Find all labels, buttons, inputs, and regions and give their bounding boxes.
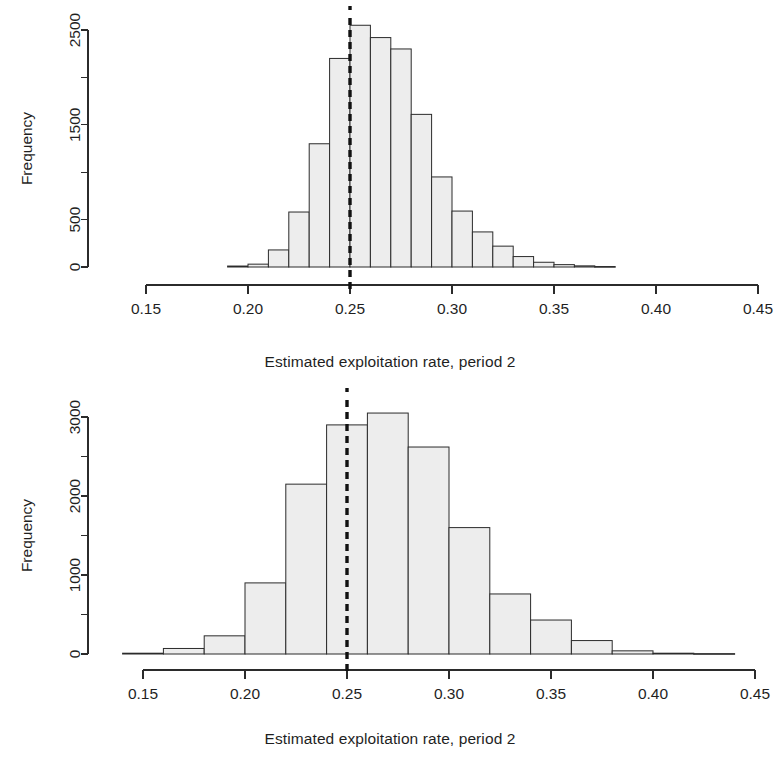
histogram-bar (228, 266, 248, 267)
histogram-bar (571, 641, 612, 654)
histogram-bar (391, 49, 411, 267)
top-plot-canvas: 050015002500Frequency0.150.200.250.300.3… (0, 0, 780, 340)
y-tick-label: 1000 (66, 557, 83, 592)
y-tick-label: 500 (66, 206, 83, 232)
histogram-bar (370, 38, 390, 267)
histogram-bar (204, 636, 245, 654)
histogram-bar (245, 583, 286, 654)
histogram-bar (531, 620, 572, 654)
histogram-bar (123, 653, 164, 654)
histogram-panel-top: 050015002500Frequency0.150.200.250.300.3… (0, 0, 780, 382)
x-tick-label: 0.30 (434, 685, 465, 702)
y-axis: 050015002500 (66, 12, 88, 271)
histogram-bar (472, 232, 492, 267)
x-tick-label: 0.20 (233, 300, 264, 317)
histogram-bar (350, 25, 370, 267)
histogram-bar (163, 648, 204, 654)
histogram-bar (268, 250, 288, 267)
histogram-bar (595, 267, 615, 268)
x-tick-label: 0.15 (128, 685, 158, 702)
histogram-bar (408, 447, 449, 654)
x-tick-label: 0.30 (437, 300, 468, 317)
histogram-bar (309, 144, 329, 267)
histogram-bar (534, 262, 554, 267)
x-tick-label: 0.35 (536, 685, 566, 702)
histogram-bar (612, 651, 653, 654)
x-tick-label: 0.25 (335, 300, 365, 317)
y-axis: 0100020003000 (66, 399, 88, 658)
y-axis-title: Frequency (18, 499, 35, 572)
y-tick-label: 2500 (66, 12, 83, 47)
x-tick-label: 0.40 (638, 685, 669, 702)
x-tick-label: 0.40 (641, 300, 672, 317)
y-tick-label: 2000 (66, 478, 83, 513)
histogram-bar (554, 265, 574, 267)
histogram-bar (493, 246, 513, 267)
x-tick-label: 0.45 (740, 685, 770, 702)
histogram-bar (653, 653, 694, 654)
histogram-bar (490, 594, 531, 654)
histogram-bar (432, 177, 452, 267)
histogram-bar (289, 212, 309, 267)
y-axis-title: Frequency (18, 112, 35, 185)
x-axis: 0.150.200.250.300.350.400.45 (131, 285, 773, 317)
x-tick-label: 0.15 (131, 300, 161, 317)
histogram-bar (452, 211, 472, 267)
reference-line-cap-dot (348, 6, 351, 10)
bottom-plot-canvas: 0100020003000Frequency0.150.200.250.300.… (0, 382, 780, 722)
x-axis: 0.150.200.250.300.350.400.45 (128, 670, 770, 702)
histogram-bar (694, 654, 735, 655)
y-tick-label: 1500 (66, 107, 83, 142)
histogram-bar (330, 58, 350, 267)
histogram-bar (411, 114, 431, 267)
x-tick-label: 0.20 (230, 685, 261, 702)
histogram-bar (513, 257, 533, 267)
histogram-bar (248, 264, 268, 267)
y-tick-label: 0 (66, 262, 83, 271)
y-tick-label: 3000 (66, 399, 83, 434)
x-tick-label: 0.45 (743, 300, 773, 317)
histogram-bar (286, 484, 327, 654)
histogram-bar (574, 266, 594, 267)
top-x-axis-title: Estimated exploitation rate, period 2 (0, 353, 780, 371)
figure-root: 050015002500Frequency0.150.200.250.300.3… (0, 0, 780, 764)
histogram-bars (123, 413, 735, 654)
x-tick-label: 0.35 (539, 300, 569, 317)
y-tick-label: 0 (66, 649, 83, 658)
histogram-bar (367, 413, 408, 654)
histogram-bar (449, 528, 490, 654)
bottom-x-axis-title: Estimated exploitation rate, period 2 (0, 730, 780, 748)
histogram-bars (228, 25, 616, 267)
reference-line-cap-dot (345, 388, 348, 392)
x-tick-label: 0.25 (332, 685, 362, 702)
histogram-panel-bottom: 0100020003000Frequency0.150.200.250.300.… (0, 382, 780, 764)
